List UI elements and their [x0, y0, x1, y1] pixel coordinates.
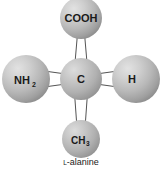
- svg-text:L-alanine: L-alanine: [63, 157, 99, 167]
- molecule-figure: COOH NH 2 H CH 3 C L-alanine: [0, 0, 161, 171]
- caption-name: -alanine: [67, 157, 99, 167]
- caption: L-alanine: [63, 157, 99, 167]
- atom-ch3-subscript: 3: [86, 140, 90, 147]
- atom-central-carbon-label: C: [77, 73, 85, 85]
- atom-cooh-label: COOH: [65, 12, 98, 24]
- atom-ch3: CH 3: [62, 120, 100, 158]
- atom-h-label: H: [128, 73, 136, 85]
- atom-nh2: NH 2: [2, 55, 50, 103]
- atom-central-carbon: C: [60, 58, 102, 100]
- atom-ch3-label: CH: [71, 135, 85, 146]
- atom-nh2-subscript: 2: [32, 81, 36, 88]
- atom-h: H: [112, 55, 160, 103]
- atom-cooh: COOH: [60, 0, 102, 39]
- atom-h-sphere: [112, 55, 160, 103]
- atom-nh2-label: NH: [14, 74, 30, 86]
- molecule-diagram: COOH NH 2 H CH 3 C L-alanine: [0, 0, 161, 171]
